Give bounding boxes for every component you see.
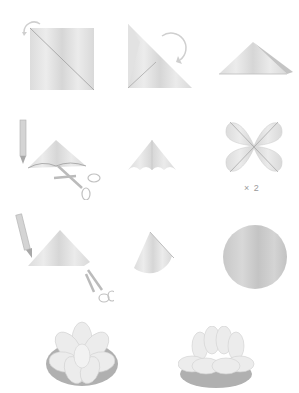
- multiplier-label: × 2: [244, 183, 260, 193]
- step-3-triangle: [215, 38, 295, 80]
- pencil-icon: [20, 120, 26, 156]
- scissors-icon: [88, 270, 102, 290]
- scissors-icon: [54, 176, 76, 178]
- step-2-fold-triangle: [120, 18, 200, 94]
- step-8-cone: [132, 228, 176, 276]
- step-1-square: [14, 14, 98, 94]
- step-6-four-petals: [222, 114, 286, 180]
- step-9-circle: [222, 224, 288, 290]
- step-7-mark-and-cut: [14, 212, 114, 304]
- step-10-lily-top: [44, 318, 124, 390]
- instruction-diagram: × 2: [0, 0, 299, 393]
- step-4-mark-and-cut: [14, 118, 104, 200]
- step-11-lily-side: [178, 326, 256, 392]
- pencil-icon: [16, 214, 31, 250]
- step-5-scalloped: [124, 136, 180, 176]
- curved-arrow-icon: [162, 33, 186, 60]
